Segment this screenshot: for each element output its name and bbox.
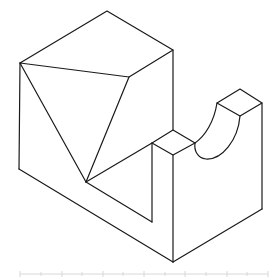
cut-edge-right [86, 77, 129, 182]
left-cube [19, 11, 173, 182]
isometric-drawing [0, 0, 276, 280]
cut-edge-left [20, 63, 86, 182]
arc-outer [195, 103, 217, 143]
scale-ruler [20, 271, 268, 277]
base-right-bottom-edge [173, 209, 262, 262]
cube-top-face [20, 11, 173, 77]
middle-small-block [152, 130, 195, 155]
cube-left-edge [19, 63, 20, 169]
base-left-bottom-edge [19, 169, 173, 262]
middle-block-top [152, 130, 195, 155]
right-block-top [217, 89, 262, 116]
cut-edge-bottom [86, 143, 152, 182]
right-small-block [217, 89, 262, 116]
semicircular-cutout [195, 103, 240, 159]
